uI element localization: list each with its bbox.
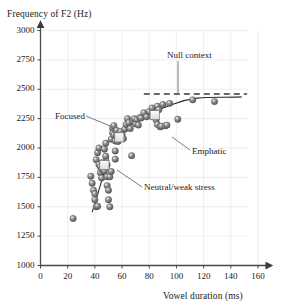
y-axis-title: Frequency of F2 (Hz) (7, 9, 92, 19)
y-tick-label: 2500 (5, 83, 35, 93)
x-tick-label: 60 (110, 271, 134, 281)
plot-frame (41, 27, 268, 266)
scatter-plot-canvas (0, 0, 291, 307)
y-tick-label: 1500 (5, 201, 35, 211)
y-tick-label: 2750 (5, 54, 35, 64)
data-points (70, 97, 218, 222)
x-tick-label: 100 (164, 271, 188, 281)
y-tick-label: 2250 (5, 113, 35, 123)
y-tick-label: 2000 (5, 142, 35, 152)
chart-figure: Frequency of F2 (Hz) Vowel duration (ms)… (0, 0, 291, 307)
y-tick-label: 1000 (5, 260, 35, 270)
y-tick-label: 1250 (5, 230, 35, 240)
annotation-neutral-weak-stress: Neutral/weak stress (144, 182, 215, 192)
x-tick-label: 120 (192, 271, 216, 281)
x-tick-label: 40 (83, 271, 107, 281)
annotation-focused: Focused (55, 111, 85, 121)
x-tick-label: 80 (137, 271, 161, 281)
x-tick-label: 140 (219, 271, 243, 281)
x-tick-label: 0 (29, 271, 53, 281)
annotation-emphatic: Emphatic (192, 146, 227, 156)
annotation-null-context: Null context (167, 50, 212, 60)
x-axis-title: Vowel duration (ms) (163, 291, 243, 301)
y-tick-label: 1750 (5, 171, 35, 181)
x-tick-label: 20 (56, 271, 80, 281)
x-tick-label: 160 (246, 271, 270, 281)
y-tick-label: 3000 (5, 25, 35, 35)
